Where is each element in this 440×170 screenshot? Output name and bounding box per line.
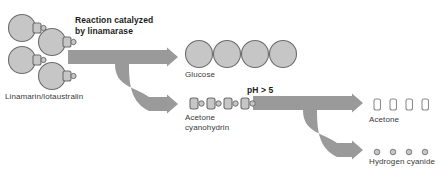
cyanide-moiety-icon (233, 101, 238, 106)
cyanide-moiety-icon (71, 73, 76, 78)
label-reaction-line1: Reaction catalyzed (75, 15, 153, 26)
hydrogen-cyanide-unit-3 (406, 149, 412, 155)
hydrogen-cyanide-unit-2 (390, 149, 396, 155)
label-reaction-line2: by linamarase (75, 26, 153, 37)
label-acetone-cyanohydrin: Acetone cyanohydrin (185, 113, 229, 133)
label-reaction-catalyzed: Reaction catalyzed by linamarase (75, 15, 153, 37)
acetone-cyanohydrin-unit-1 (190, 98, 204, 109)
glucose-unit-3 (242, 41, 269, 68)
label-hydrogen-cyanide: Hydrogen cyanide (369, 157, 435, 167)
acetone-cyanohydrin-molecule-group (190, 98, 255, 109)
label-acetone: Acetone (369, 115, 399, 125)
acetone-cyanohydrin-unit-4 (241, 98, 255, 109)
hydrogen-cyanide-molecule-group (374, 149, 428, 155)
molecules-layer (0, 0, 440, 170)
acetone-cyanohydrin-unit-3 (224, 98, 238, 109)
glucose-moiety-icon (9, 15, 36, 42)
acetone-moiety-icon (63, 37, 71, 47)
acetone-unit-3 (406, 99, 413, 110)
label-ph-condition: pH > 5 (247, 85, 273, 96)
glucose-moiety-icon (39, 29, 66, 56)
hydrogen-cyanide-unit-1 (374, 149, 380, 155)
label-acetone-cyanohydrin-line1: Acetone (185, 113, 229, 123)
acetone-moiety-icon (190, 98, 198, 109)
glucose-moiety-icon (9, 47, 36, 74)
acetone-moiety-icon (63, 71, 71, 81)
acetone-moiety-icon (33, 55, 41, 65)
acetone-moiety-icon (224, 98, 232, 109)
acetone-unit-4 (422, 99, 429, 110)
linamarin-molecule-group (9, 15, 77, 90)
label-acetone-cyanohydrin-line2: cyanohydrin (185, 123, 229, 133)
acetone-moiety-icon (241, 98, 249, 109)
acetone-cyanohydrin-unit-2 (207, 98, 221, 109)
glucose-unit-1 (186, 41, 213, 68)
label-glucose: Glucose (185, 70, 215, 80)
glucose-unit-4 (270, 41, 297, 68)
acetone-moiety-icon (33, 23, 41, 33)
acetone-molecule-group (374, 99, 429, 110)
label-linamarin: Linamarin/lotaustralin (5, 92, 83, 102)
acetone-unit-2 (390, 99, 397, 110)
cyanide-moiety-icon (41, 57, 46, 62)
glucose-molecule-group (186, 41, 297, 68)
linamarin-unit-4 (39, 63, 77, 90)
cyanide-moiety-icon (71, 39, 76, 44)
cyanide-moiety-icon (199, 101, 204, 106)
cyanide-moiety-icon (216, 101, 221, 106)
acetone-unit-1 (374, 99, 381, 110)
cyanide-moiety-icon (250, 101, 255, 106)
glucose-moiety-icon (39, 63, 66, 90)
linamarin-pathway-diagram: Linamarin/lotaustralin Reaction catalyze… (0, 0, 440, 170)
hydrogen-cyanide-unit-4 (422, 149, 428, 155)
glucose-unit-2 (214, 41, 241, 68)
acetone-moiety-icon (207, 98, 215, 109)
linamarin-unit-2 (39, 29, 77, 56)
